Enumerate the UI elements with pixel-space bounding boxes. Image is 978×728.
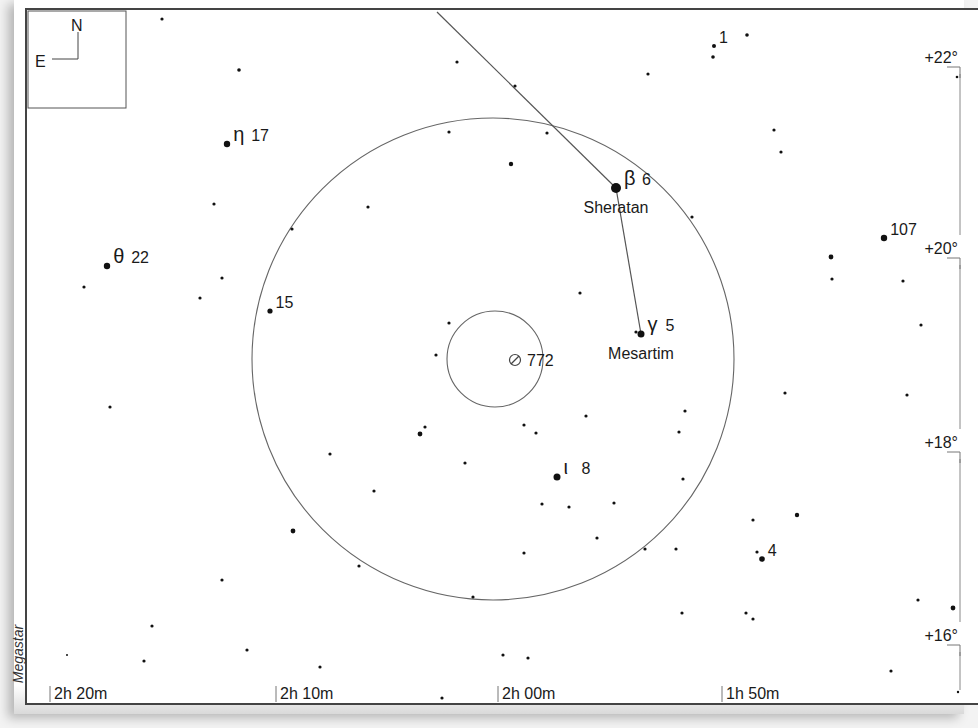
star [674, 547, 677, 550]
star [829, 255, 834, 260]
star [957, 691, 959, 693]
star [471, 595, 474, 598]
flamsteed-label: 17 [251, 127, 269, 144]
star [772, 128, 775, 131]
star [612, 501, 615, 504]
star [237, 68, 241, 72]
greek-letter-label: β [624, 167, 636, 189]
star [677, 430, 680, 433]
star [357, 564, 360, 567]
star-dot [611, 183, 621, 193]
star [455, 60, 458, 63]
star-chart[interactable]: N E β6Sheratanγ5Mesartimη17θ22ι81510714 … [27, 10, 978, 703]
star-beta-6[interactable]: β6Sheratan [584, 167, 651, 216]
flamsteed-label: 5 [666, 317, 675, 334]
star [646, 72, 649, 75]
star [328, 452, 331, 455]
star [534, 431, 537, 434]
star [956, 76, 959, 79]
greek-letter-label: ι [564, 456, 568, 478]
star [447, 130, 450, 133]
star-name-label: Mesartim [608, 345, 674, 362]
star [751, 518, 754, 521]
star [66, 654, 68, 656]
star-1[interactable]: 1 [712, 29, 728, 48]
star [160, 17, 163, 20]
star [447, 321, 450, 324]
greek-letter-label: θ [113, 245, 124, 267]
star [745, 33, 749, 37]
star [501, 653, 504, 656]
star-dot [759, 556, 765, 562]
flamsteed-label: 22 [131, 249, 149, 266]
star-107[interactable]: 107 [881, 221, 917, 241]
star [643, 547, 646, 550]
star-dot [638, 331, 645, 338]
star-dot [554, 474, 561, 481]
star [783, 391, 786, 394]
flamsteed-label: 4 [768, 542, 777, 559]
star [440, 696, 443, 699]
star-15[interactable]: 15 [267, 294, 293, 314]
ra-tick: 2h 00m [498, 682, 570, 703]
star [751, 617, 754, 620]
star [220, 276, 223, 279]
dec-tick-label: +20° [924, 240, 958, 257]
star [595, 536, 598, 539]
asterism-line-1 [437, 12, 616, 188]
star [220, 578, 223, 581]
star-4[interactable]: 4 [759, 542, 777, 562]
star [198, 296, 201, 299]
ra-tick-label: 2h 10m [280, 685, 333, 702]
star-dot [712, 44, 716, 48]
galaxy-icon-slash [511, 356, 519, 364]
star [245, 648, 248, 651]
star [905, 393, 908, 396]
star [318, 665, 321, 668]
star [830, 277, 833, 280]
star [779, 150, 782, 153]
star [680, 611, 683, 614]
dec-tick: +20° [914, 235, 974, 269]
star [567, 505, 570, 508]
dec-tick: +18° [914, 429, 974, 463]
dec-tick-label: +16° [924, 627, 958, 644]
star [522, 423, 525, 426]
star-name-label: Sheratan [584, 199, 649, 216]
compass-north-label: N [71, 17, 83, 34]
star [795, 513, 799, 517]
star [690, 215, 693, 218]
star [82, 285, 85, 288]
star [150, 624, 153, 627]
ra-tick-label: 1h 50m [726, 685, 779, 702]
star [755, 550, 758, 553]
compass-rose: N E [28, 11, 126, 108]
star [578, 291, 581, 294]
star [212, 202, 215, 205]
flamsteed-label: 107 [890, 221, 917, 238]
target-galaxy[interactable]: 772 [510, 352, 554, 369]
star [711, 55, 715, 59]
star [545, 131, 548, 134]
star [522, 551, 525, 554]
star [901, 279, 904, 282]
star-eta-17[interactable]: η17 [224, 123, 269, 147]
star [108, 405, 111, 408]
star [681, 477, 684, 480]
compass-east-label: E [35, 53, 46, 70]
star-dot [104, 263, 110, 269]
star [290, 227, 293, 230]
flamsteed-label: 15 [276, 294, 294, 311]
dec-tick-label: +18° [924, 434, 958, 451]
star [366, 205, 369, 208]
flamsteed-label: 1 [719, 29, 728, 46]
star-theta-22[interactable]: θ22 [104, 245, 149, 269]
asterism-lines [437, 12, 641, 334]
star-iota-8[interactable]: ι8 [554, 456, 591, 481]
star [142, 659, 145, 662]
star-gamma-5[interactable]: γ5Mesartim [608, 313, 674, 362]
star [744, 611, 747, 614]
dec-tick: +16° [914, 622, 974, 656]
star-dot [224, 141, 230, 147]
star-dot [881, 235, 887, 241]
